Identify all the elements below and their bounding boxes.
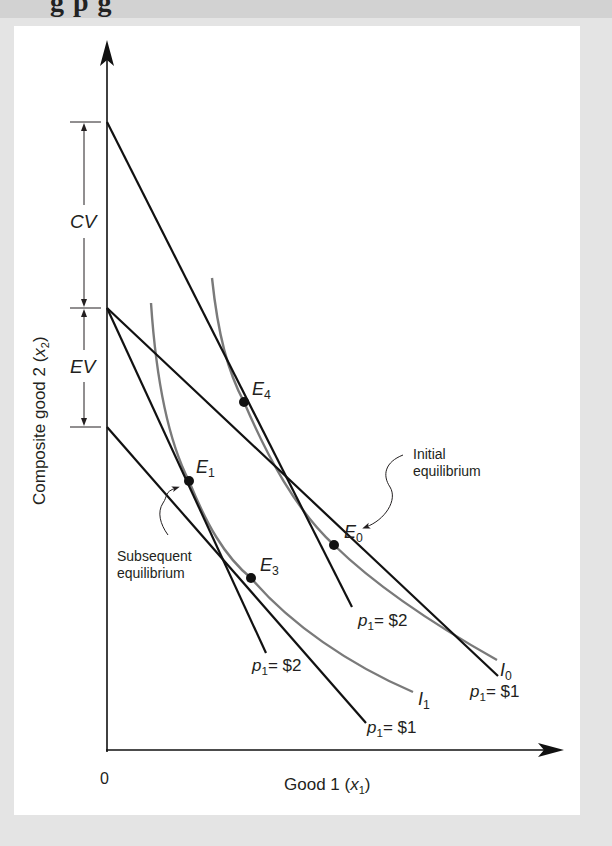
cv-ev-brackets (70, 122, 101, 427)
label-e1: E1 (196, 458, 215, 476)
label-e1-letter: E (196, 457, 208, 477)
label-i0: I0 (500, 661, 512, 679)
label-e0-letter: E (344, 522, 356, 542)
price-label-steep-outer: p1= $2 (358, 612, 407, 629)
ev-label-text: EV (70, 356, 95, 377)
price-value: = $2 (374, 611, 408, 630)
initial-line1: Initial (413, 446, 481, 463)
page: g p g (0, 0, 612, 846)
cv-ev-diagram (0, 0, 612, 846)
point-e3 (246, 573, 256, 583)
budget-line-upper-steep (107, 122, 352, 607)
label-i1: I1 (418, 690, 430, 708)
cv-label-text: CV (70, 211, 96, 232)
ev-label: EV (70, 357, 95, 376)
label-e4: E4 (252, 380, 271, 398)
label-e3-sub: 3 (272, 564, 279, 578)
label-e0: E0 (344, 523, 363, 541)
x-axis-var: x (350, 775, 359, 794)
label-e4-sub: 4 (264, 388, 271, 402)
y-axis-label: Composite good 2 (x2) (30, 336, 51, 505)
point-e1 (184, 476, 194, 486)
price-label-shallow-inner: p1= $1 (367, 719, 416, 736)
initial-equilibrium-arrow-icon (366, 455, 403, 527)
origin-label-text: 0 (100, 770, 109, 787)
origin-label: 0 (100, 771, 109, 787)
y-axis-sub: 2 (39, 342, 51, 348)
price-value: = $1 (383, 718, 417, 737)
indifference-curve-i1 (151, 303, 413, 692)
budget-lines (107, 122, 498, 723)
y-axis-var: x (30, 348, 49, 357)
price-label-shallow-outer: p1= $1 (470, 683, 519, 700)
label-e3: E3 (260, 556, 279, 574)
initial-equilibrium-note: Initial equilibrium (413, 446, 481, 480)
subsequent-line1: Subsequent (117, 548, 192, 565)
price-value: = $2 (268, 656, 302, 675)
cv-label: CV (70, 212, 96, 231)
subsequent-equilibrium-note: Subsequent equilibrium (117, 548, 192, 582)
subsequent-line2: equilibrium (117, 565, 192, 582)
label-e1-sub: 1 (208, 466, 215, 480)
label-e4-letter: E (252, 379, 264, 399)
price-value: = $1 (486, 682, 520, 701)
indifference-curves (151, 278, 497, 692)
initial-line2: equilibrium (413, 463, 481, 480)
point-e0 (329, 540, 339, 550)
x-axis-label-text: Good 1 ( (284, 775, 350, 794)
point-e4 (239, 397, 249, 407)
label-i1-sub: 1 (423, 698, 430, 712)
label-e0-sub: 0 (356, 531, 363, 545)
y-axis-close: ) (30, 336, 49, 342)
x-axis-close: ) (365, 775, 371, 794)
label-e3-letter: E (260, 555, 272, 575)
y-axis-label-text: Composite good 2 ( (30, 357, 49, 505)
price-label-steep-inner: p1= $2 (252, 657, 301, 674)
budget-line-middle-shallow (107, 308, 498, 676)
x-axis-label: Good 1 (x1) (284, 776, 370, 793)
